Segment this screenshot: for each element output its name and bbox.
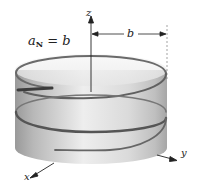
- equation-variable: a: [28, 33, 36, 48]
- z-axis-label: z: [86, 8, 91, 18]
- helix-diagram: [0, 0, 197, 186]
- equation-operator: =: [43, 33, 62, 48]
- x-axis-label: x: [24, 172, 30, 182]
- equation-subscript: N: [36, 39, 43, 49]
- radius-label: b: [125, 28, 136, 39]
- equation-rhs: b: [62, 33, 70, 48]
- x-axis: [30, 163, 54, 178]
- y-axis: [157, 155, 177, 162]
- normal-acceleration-equation: aN = b: [28, 34, 71, 48]
- y-axis-label: y: [181, 148, 187, 158]
